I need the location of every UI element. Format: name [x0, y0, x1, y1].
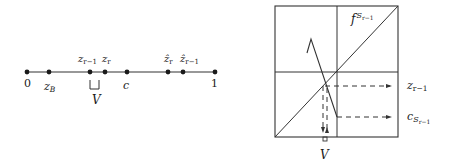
figure-canvas: 0 zB c 1 zr−1 zr ẑr ẑr−1 V fSr− — [0, 0, 451, 165]
label-f-S-r-1: fSr−1 — [350, 11, 374, 26]
point-zr-1-dot — [88, 70, 93, 75]
number-line-diagram: 0 zB c 1 zr−1 zr ẑr ẑr−1 V — [24, 53, 218, 107]
label-1: 1 — [211, 77, 218, 90]
point-hat-zr-dot — [166, 70, 171, 75]
arrowhead-up-right — [325, 127, 329, 133]
label-V-left: V — [92, 93, 102, 107]
point-1-dot — [213, 70, 218, 75]
label-c-S-r-1: cSr−1 — [407, 110, 430, 125]
point-zB-dot — [47, 70, 52, 75]
interval-V-bracket — [90, 80, 99, 89]
arrowhead-c — [386, 115, 392, 119]
label-zB: zB — [43, 80, 56, 94]
function-branch-curve — [307, 39, 337, 117]
label-z-r-1: zr−1 — [406, 79, 427, 93]
label-hat-zr-1: ẑr−1 — [179, 53, 199, 66]
arrowhead-z — [386, 84, 392, 88]
interval-V-box — [323, 137, 327, 141]
function-graph-diagram: fSr−1 zr−1 cSr−1 V — [275, 6, 430, 162]
label-zr-1: zr−1 — [77, 53, 97, 66]
arrowhead-down-left — [321, 127, 325, 133]
point-hat-zr-1-dot — [181, 70, 186, 75]
point-c-dot — [125, 70, 130, 75]
label-hat-zr: ẑr — [163, 53, 173, 66]
label-0: 0 — [24, 77, 31, 90]
point-zr-dot — [103, 70, 108, 75]
label-c: c — [123, 79, 129, 92]
point-0-dot — [25, 70, 30, 75]
label-V-right: V — [320, 148, 330, 162]
label-zr: zr — [101, 53, 111, 66]
